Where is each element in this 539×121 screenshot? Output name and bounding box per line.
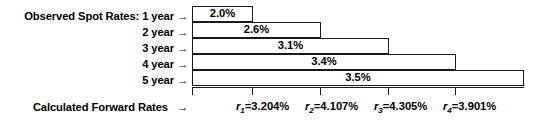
row-labels-column: Observed Spot Rates: 1 year→ 2 year→ 3 y… — [0, 0, 188, 121]
forward-rate-r1: r1=3.204% — [236, 101, 289, 115]
bar-2-year: 2.6% — [192, 22, 321, 38]
bar-1-year: 2.0% — [192, 6, 253, 22]
bar-value-4-year: 3.4% — [193, 56, 455, 67]
axis-tick-1 — [252, 87, 253, 95]
chart-plot-area: 2.0% 2.6% 3.1% 3.4% 3.5% r1=3.204% r2=4.… — [192, 0, 539, 121]
term-label-2-year: 2 year — [142, 26, 174, 38]
axis-tick-2 — [320, 87, 321, 95]
spot-rate-label-4-year: 4 year→ — [142, 56, 188, 72]
bar-5-year: 3.5% — [192, 70, 524, 86]
calculated-forward-rates-label: Calculated Forward Rates → — [33, 99, 188, 115]
term-label-1-year: 1 year — [142, 10, 174, 22]
forward-rate-value-r2: =4.107% — [314, 100, 358, 112]
forward-rate-r4: r4=3.901% — [443, 101, 496, 115]
bar-4-year: 3.4% — [192, 54, 456, 70]
term-label-5-year: 5 year — [142, 74, 174, 86]
arrow-icon-2-year: → — [174, 24, 188, 40]
axis-tick-4 — [455, 87, 456, 95]
observed-spot-rates-header: Observed Spot Rates: — [24, 10, 139, 22]
forward-rate-value-r4: =3.901% — [452, 100, 496, 112]
bar-value-2-year: 2.6% — [193, 24, 320, 35]
bar-value-5-year: 3.5% — [193, 72, 523, 83]
axis-tick-3 — [388, 87, 389, 95]
axis-tick-0 — [192, 87, 193, 95]
spot-rate-label-1-year: Observed Spot Rates: 1 year→ — [24, 8, 188, 24]
spot-rate-label-5-year: 5 year→ — [142, 72, 188, 88]
forward-rate-diagram: Observed Spot Rates: 1 year→ 2 year→ 3 y… — [0, 0, 539, 121]
arrow-icon-1-year: → — [174, 8, 188, 24]
forward-rate-r2: r2=4.107% — [305, 101, 358, 115]
arrow-icon-3-year: → — [174, 40, 188, 56]
bar-3-year: 3.1% — [192, 38, 389, 54]
forward-rate-value-r3: =4.305% — [383, 100, 427, 112]
arrow-icon-forward-rates: → — [171, 99, 188, 115]
axis-line — [192, 87, 524, 88]
arrow-icon-5-year: → — [174, 72, 188, 88]
spot-rate-label-2-year: 2 year→ — [142, 24, 188, 40]
forward-rate-r3: r3=4.305% — [374, 101, 427, 115]
term-label-4-year: 4 year — [142, 58, 174, 70]
bar-value-3-year: 3.1% — [193, 40, 388, 51]
term-label-3-year: 3 year — [142, 42, 174, 54]
calculated-forward-rates-header: Calculated Forward Rates — [33, 101, 168, 113]
arrow-icon-4-year: → — [174, 56, 188, 72]
spot-rate-label-3-year: 3 year→ — [142, 40, 188, 56]
bar-value-1-year: 2.0% — [193, 8, 252, 19]
forward-rate-value-r1: =3.204% — [245, 100, 289, 112]
